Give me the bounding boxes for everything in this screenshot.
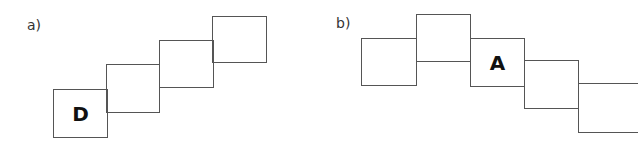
square-a-1: D	[53, 89, 108, 138]
square-b-3: A	[470, 38, 525, 87]
square-b-1	[361, 38, 417, 86]
square-a-4	[212, 16, 267, 63]
square-b-4	[524, 60, 579, 109]
square-a-3	[159, 40, 214, 88]
figure-a-label: a)	[27, 17, 41, 33]
square-a-2	[106, 64, 160, 113]
square-b-2	[416, 14, 471, 62]
figure-b-label: b)	[336, 15, 350, 31]
square-b-5	[578, 83, 638, 133]
